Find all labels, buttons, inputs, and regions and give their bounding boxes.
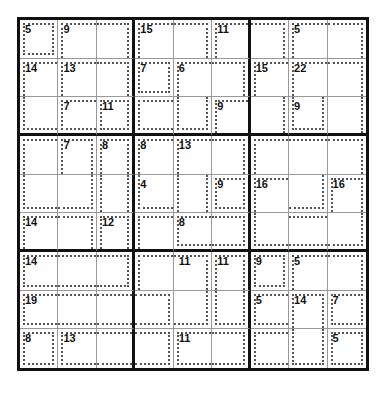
cage-sum-clue: 8	[179, 217, 185, 228]
cell-r8c6[interactable]	[251, 329, 289, 368]
cell-r2c5[interactable]: 9	[212, 97, 250, 136]
cell-r5c1[interactable]	[58, 213, 96, 252]
cell-r7c1[interactable]	[58, 291, 96, 330]
cell-r4c2[interactable]	[97, 175, 135, 214]
cell-r4c5[interactable]: 9	[212, 175, 250, 214]
cell-r2c0[interactable]	[20, 97, 58, 136]
cell-r0c2[interactable]	[97, 20, 135, 59]
cell-r7c2[interactable]	[97, 291, 135, 330]
cell-r3c8[interactable]	[328, 136, 366, 175]
cell-r8c3[interactable]	[135, 329, 173, 368]
cell-r6c4[interactable]: 11	[174, 252, 212, 291]
cell-r8c8[interactable]: 5	[328, 329, 366, 368]
cell-r3c7[interactable]	[289, 136, 327, 175]
cell-r0c3[interactable]: 15	[135, 20, 173, 59]
cell-r6c6[interactable]: 9	[251, 252, 289, 291]
cage-sum-clue: 9	[217, 179, 223, 190]
cell-r6c5[interactable]: 11	[212, 252, 250, 291]
cage-sum-clue: 16	[333, 179, 345, 190]
cage-border-b	[58, 252, 95, 287]
cell-r2c4[interactable]	[174, 97, 212, 136]
cage-border-l	[23, 139, 57, 174]
cell-r1c4[interactable]: 6	[174, 59, 212, 98]
cell-r2c1[interactable]: 7	[58, 97, 96, 136]
cell-r7c4[interactable]	[174, 291, 212, 330]
cage-border-r	[174, 23, 208, 58]
cage-border-l	[23, 175, 57, 210]
cell-r4c8[interactable]: 16	[328, 175, 366, 214]
cell-r6c2[interactable]	[97, 252, 135, 291]
cell-r0c0[interactable]: 5	[20, 20, 58, 59]
cage-sum-clue: 5	[25, 24, 31, 35]
cell-r6c0[interactable]: 14	[20, 252, 58, 291]
cell-r7c8[interactable]: 7	[328, 291, 366, 330]
cell-r8c7[interactable]	[289, 329, 327, 368]
cell-r6c1[interactable]	[58, 252, 96, 291]
cell-r4c3[interactable]: 4	[135, 175, 173, 214]
cell-r8c1[interactable]: 13	[58, 329, 96, 368]
cell-r3c4[interactable]: 13	[174, 136, 212, 175]
cell-r3c1[interactable]: 7	[58, 136, 96, 175]
cell-r4c6[interactable]: 16	[251, 175, 289, 214]
cell-r3c2[interactable]: 8	[97, 136, 135, 175]
cell-r7c3[interactable]	[135, 291, 173, 330]
cage-sum-clue: 22	[294, 63, 306, 74]
cell-r7c6[interactable]: 5	[251, 291, 289, 330]
cell-r4c4[interactable]	[174, 175, 212, 214]
cell-r2c7[interactable]: 9	[289, 97, 327, 136]
cell-r5c5[interactable]	[212, 213, 250, 252]
cell-r4c0[interactable]	[20, 175, 58, 214]
cell-r1c2[interactable]	[97, 59, 135, 98]
cell-r3c0[interactable]	[20, 136, 58, 175]
cell-r2c8[interactable]	[328, 97, 366, 136]
cell-r8c5[interactable]	[212, 329, 250, 368]
cage-sum-clue: 19	[25, 295, 37, 306]
cell-r3c5[interactable]	[212, 136, 250, 175]
cell-r7c5[interactable]	[212, 291, 250, 330]
cell-r0c6[interactable]	[251, 20, 289, 59]
cell-r5c3[interactable]	[135, 213, 173, 252]
cell-r5c7[interactable]	[289, 213, 327, 252]
cage-border-r	[135, 294, 169, 326]
cage-border-b	[58, 291, 95, 326]
cell-r1c6[interactable]: 15	[251, 59, 289, 98]
cage-border-r	[289, 175, 323, 210]
cell-r8c4[interactable]: 11	[174, 329, 212, 368]
cell-r0c8[interactable]	[328, 20, 366, 59]
cage-border-r	[97, 23, 129, 58]
cell-r0c1[interactable]: 9	[58, 20, 96, 59]
cell-r2c3[interactable]	[135, 97, 173, 136]
cell-r6c8[interactable]	[328, 252, 366, 291]
cell-r1c0[interactable]: 14	[20, 59, 58, 98]
cage-sum-clue: 15	[256, 63, 268, 74]
cell-r8c0[interactable]: 8	[20, 329, 58, 368]
cage-border-l	[254, 139, 288, 174]
cell-r5c0[interactable]: 14	[20, 213, 58, 252]
cell-r2c2[interactable]: 11	[97, 97, 135, 136]
cell-r0c4[interactable]	[174, 20, 212, 59]
cell-r3c6[interactable]	[251, 136, 289, 175]
cage-border-l	[254, 213, 288, 246]
cell-r6c7[interactable]: 5	[289, 252, 327, 291]
cell-r4c1[interactable]	[58, 175, 96, 214]
cell-r7c0[interactable]: 19	[20, 291, 58, 330]
cell-r8c2[interactable]	[97, 329, 135, 368]
cell-r3c3[interactable]: 8	[135, 136, 173, 175]
cell-r7c7[interactable]: 14	[289, 291, 327, 330]
cell-r1c3[interactable]: 7	[135, 59, 173, 98]
cell-r4c7[interactable]	[289, 175, 327, 214]
cell-r5c6[interactable]	[251, 213, 289, 252]
cell-r0c5[interactable]: 11	[212, 20, 250, 59]
cage-sum-clue: 7	[63, 140, 69, 151]
cell-r5c8[interactable]	[328, 213, 366, 252]
cell-r1c8[interactable]	[328, 59, 366, 98]
cell-r1c1[interactable]: 13	[58, 59, 96, 98]
cell-r2c6[interactable]	[251, 97, 289, 136]
cell-r1c5[interactable]	[212, 59, 250, 98]
cell-r5c2[interactable]: 12	[97, 213, 135, 252]
cell-r6c3[interactable]	[135, 252, 173, 291]
cage-border-r	[212, 139, 244, 174]
cell-r0c7[interactable]: 5	[289, 20, 327, 59]
cell-r1c7[interactable]: 22	[289, 59, 327, 98]
cell-r5c4[interactable]: 8	[174, 213, 212, 252]
